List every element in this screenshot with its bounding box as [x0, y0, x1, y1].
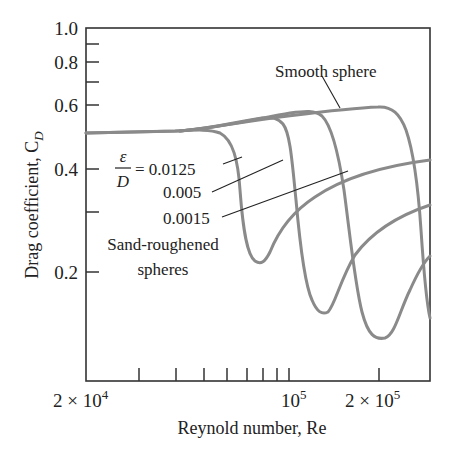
curve-eps-0.005: [180, 118, 430, 313]
label-spheres: spheres: [138, 260, 189, 279]
label-sand-roughened: Sand-roughened: [107, 235, 219, 254]
curve-smooth-sphere: [86, 107, 430, 318]
plot-frame: [86, 28, 430, 381]
x-tick-labels: 2 × 104 105 2 × 105: [53, 387, 400, 411]
label-0.0125: = 0.0125: [135, 160, 196, 179]
curve-eps-0.0015: [180, 111, 430, 338]
curves: [86, 107, 430, 338]
y-tick-0.4: 0.4: [54, 159, 78, 180]
drag-coefficient-chart: 1.0 0.8 0.6 0.4 0.2 2 × 104 105 2 × 105 …: [0, 0, 451, 452]
y-axis-title: Drag coefficient, CD: [22, 131, 46, 279]
x-axis-ticks: [139, 368, 379, 381]
label-0.005: 0.005: [163, 183, 201, 202]
leader-0.005: [212, 160, 283, 192]
d-symbol: D: [116, 172, 130, 191]
leader-0.0125: [223, 157, 242, 164]
y-tick-labels: 1.0 0.8 0.6 0.4 0.2: [54, 18, 78, 283]
y-axis-ticks: [86, 44, 99, 272]
eps-symbol: ε: [120, 147, 127, 166]
x-tick-2e4: 2 × 104: [53, 387, 109, 411]
y-tick-0.6: 0.6: [54, 95, 78, 116]
x-axis-title: Reynold number, Re: [178, 418, 327, 438]
y-tick-1.0: 1.0: [54, 18, 78, 39]
label-0.0015: 0.0015: [163, 209, 210, 228]
x-tick-1e5: 105: [281, 387, 307, 411]
y-tick-0.8: 0.8: [54, 52, 78, 73]
x-tick-2e5: 2 × 105: [345, 387, 400, 411]
y-tick-0.2: 0.2: [54, 262, 78, 283]
label-smooth-sphere: Smooth sphere: [275, 62, 377, 81]
